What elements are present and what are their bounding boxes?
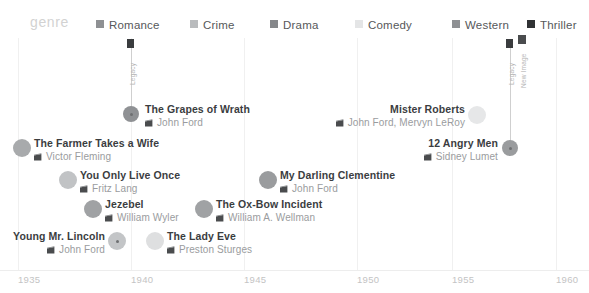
legend-item-label: Crime bbox=[203, 19, 235, 31]
film-label[interactable]: Young Mr. LincolnJohn Ford bbox=[0, 230, 105, 256]
legend-item-label: Western bbox=[465, 19, 509, 31]
plot-area: LegacyLegacyNew ImageThe Grapes of Wrath… bbox=[0, 38, 589, 270]
clapperboard-icon bbox=[336, 116, 344, 128]
film-director: Preston Sturges bbox=[179, 244, 252, 256]
film-director: Fritz Lang bbox=[92, 183, 137, 195]
legend-item-drama[interactable]: Drama bbox=[270, 15, 319, 29]
film-title: My Darling Clementine bbox=[280, 169, 395, 181]
axis-tick-label: 1950 bbox=[357, 274, 379, 285]
legend-item-label: Romance bbox=[109, 19, 160, 31]
film-director: William Wyler bbox=[117, 212, 179, 224]
x-axis: 193519401945195019551960 bbox=[0, 270, 589, 286]
film-director-row: Sidney Lumet bbox=[0, 150, 498, 163]
film-title: Young Mr. Lincoln bbox=[0, 230, 105, 242]
legend-swatch-thriller bbox=[527, 20, 535, 28]
film-title: You Only Live Once bbox=[80, 169, 180, 181]
film-marker-dot[interactable] bbox=[259, 171, 277, 189]
film-marker-center-dot bbox=[116, 240, 119, 243]
film-director-row: John Ford bbox=[280, 182, 395, 195]
legend-swatch-drama bbox=[270, 20, 278, 28]
clapperboard-icon bbox=[47, 243, 55, 255]
annotation-label: New Image bbox=[520, 53, 527, 88]
annotation-marker-icon bbox=[127, 39, 134, 48]
film-label[interactable]: 12 Angry MenSidney Lumet bbox=[0, 137, 498, 163]
film-marker-dot[interactable] bbox=[59, 171, 77, 189]
film-title: The Lady Eve bbox=[167, 230, 252, 242]
legend-item-thriller[interactable]: Thriller bbox=[527, 15, 577, 29]
clapperboard-icon bbox=[167, 243, 175, 255]
film-label[interactable]: My Darling ClementineJohn Ford bbox=[280, 169, 395, 195]
film-marker-dot[interactable] bbox=[146, 232, 164, 250]
legend-item-romance[interactable]: Romance bbox=[96, 15, 160, 29]
film-label[interactable]: You Only Live OnceFritz Lang bbox=[80, 169, 180, 195]
film-title: Mister Roberts bbox=[0, 103, 465, 115]
legend-item-crime[interactable]: Crime bbox=[190, 15, 235, 29]
film-title: The Ox-Bow Incident bbox=[216, 198, 322, 210]
gridline bbox=[556, 38, 557, 270]
axis-tick-label: 1960 bbox=[556, 274, 578, 285]
film-director-row: Fritz Lang bbox=[80, 182, 180, 195]
film-director-row: William A. Wellman bbox=[216, 211, 322, 224]
legend-title: genre bbox=[30, 14, 69, 30]
clapperboard-icon bbox=[105, 211, 113, 223]
axis-tick-label: 1945 bbox=[244, 274, 266, 285]
legend-item-label: Comedy bbox=[368, 19, 412, 31]
clapperboard-icon bbox=[216, 211, 224, 223]
film-director-row: John Ford, Mervyn LeRoy bbox=[0, 116, 465, 129]
film-marker-dot[interactable] bbox=[195, 200, 213, 218]
film-label[interactable]: The Ox-Bow IncidentWilliam A. Wellman bbox=[216, 198, 322, 224]
annotation-marker-icon bbox=[506, 39, 513, 48]
film-marker-center-dot bbox=[509, 147, 512, 150]
film-title: Jezebel bbox=[105, 198, 179, 210]
legend-swatch-western bbox=[452, 20, 460, 28]
film-director-row: Preston Sturges bbox=[167, 243, 252, 256]
film-title: 12 Angry Men bbox=[0, 137, 498, 149]
timeline-chart: genre RomanceCrimeDramaComedyWesternThri… bbox=[0, 0, 589, 293]
clapperboard-icon bbox=[80, 182, 88, 194]
film-marker-dot[interactable] bbox=[468, 106, 486, 124]
film-marker-dot[interactable] bbox=[84, 200, 102, 218]
film-director: Sidney Lumet bbox=[436, 151, 498, 163]
annotation-marker-icon bbox=[518, 35, 526, 44]
legend-item-comedy[interactable]: Comedy bbox=[355, 15, 412, 29]
film-label[interactable]: The Lady EvePreston Sturges bbox=[167, 230, 252, 256]
legend-swatch-romance bbox=[96, 20, 104, 28]
legend-item-label: Thriller bbox=[540, 19, 577, 31]
legend-item-western[interactable]: Western bbox=[452, 15, 509, 29]
legend-item-label: Drama bbox=[283, 19, 319, 31]
axis-tick-label: 1935 bbox=[18, 274, 40, 285]
film-director: John Ford bbox=[59, 244, 105, 256]
genre-legend: genre RomanceCrimeDramaComedyWesternThri… bbox=[0, 12, 589, 32]
film-label[interactable]: JezebelWilliam Wyler bbox=[105, 198, 179, 224]
film-director: John Ford bbox=[292, 183, 338, 195]
clapperboard-icon bbox=[424, 150, 432, 162]
axis-baseline bbox=[0, 270, 589, 271]
film-label[interactable]: Mister RobertsJohn Ford, Mervyn LeRoy bbox=[0, 103, 465, 129]
legend-swatch-crime bbox=[190, 20, 198, 28]
clapperboard-icon bbox=[280, 182, 288, 194]
legend-swatch-comedy bbox=[355, 20, 363, 28]
film-director-row: John Ford bbox=[0, 243, 105, 256]
axis-tick-label: 1955 bbox=[452, 274, 474, 285]
axis-tick-label: 1940 bbox=[131, 274, 153, 285]
film-director: William A. Wellman bbox=[228, 212, 315, 224]
film-director: John Ford, Mervyn LeRoy bbox=[348, 117, 465, 129]
annotation-label: Legacy bbox=[129, 63, 136, 85]
film-director-row: William Wyler bbox=[105, 211, 179, 224]
annotation-label: Legacy bbox=[508, 63, 515, 85]
